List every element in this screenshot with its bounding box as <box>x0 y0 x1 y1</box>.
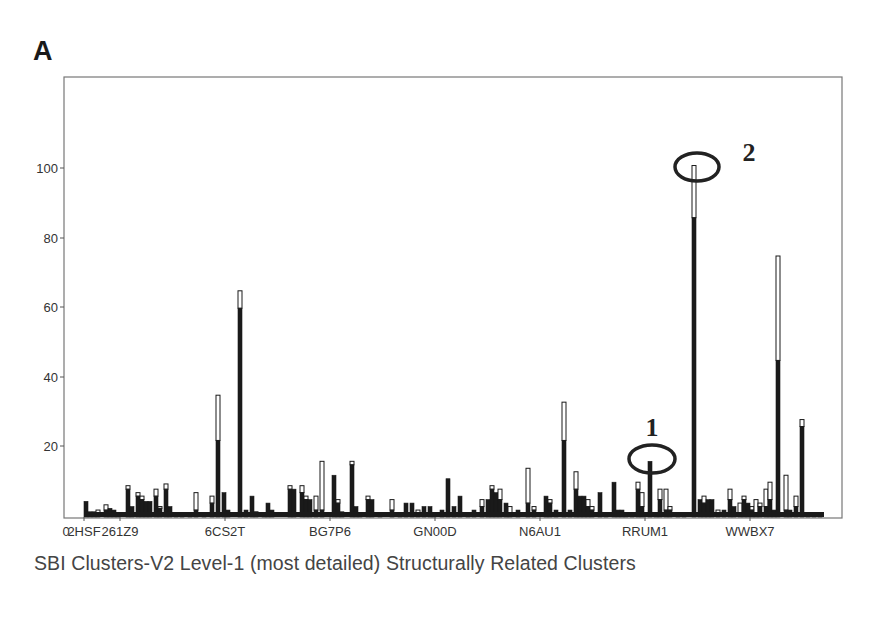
annotation-label: 1 <box>646 413 659 442</box>
x-tick-label: 261Z9 <box>102 524 139 539</box>
annotation-label: 2 <box>743 138 756 167</box>
y-tick-label: 40 <box>44 370 58 385</box>
bar <box>776 256 780 517</box>
bar <box>350 461 354 517</box>
bar <box>446 479 450 517</box>
x-tick-label: BG7P6 <box>309 524 351 539</box>
bar <box>648 461 652 517</box>
x-axis-title: SBI Clusters-V2 Level-1 (most detailed) … <box>34 552 636 575</box>
x-tick-label: GN00D <box>413 524 456 539</box>
bar <box>216 395 220 517</box>
y-tick-label: 60 <box>44 300 58 315</box>
bar-chart: 20406080100 02HSF261Z96CS2TBG7P6GN00DN6A… <box>0 0 871 619</box>
bar <box>562 402 566 517</box>
bar <box>636 482 640 517</box>
y-tick-label: 100 <box>36 161 58 176</box>
x-tick-label: 2HSF <box>67 524 100 539</box>
bar <box>238 291 242 517</box>
x-tick-label: N6AU1 <box>519 524 561 539</box>
x-tick-label: 6CS2T <box>205 524 246 539</box>
bar <box>526 468 530 517</box>
y-tick-label: 80 <box>44 231 58 246</box>
bar <box>320 461 324 517</box>
baseline-band <box>84 512 824 517</box>
bar <box>800 420 804 517</box>
bar <box>574 472 578 517</box>
y-axis: 20406080100 <box>36 161 64 454</box>
x-tick-label: WWBX7 <box>725 524 774 539</box>
x-axis: 02HSF261Z96CS2TBG7P6GN00DN6AU1RRUM1WWBX7 <box>62 517 774 539</box>
bar <box>612 482 616 517</box>
plot-frame <box>64 77 842 518</box>
bar <box>784 475 788 517</box>
bar <box>768 482 772 517</box>
y-tick-label: 20 <box>44 439 58 454</box>
bar <box>332 475 336 517</box>
x-tick-label: RRUM1 <box>622 524 668 539</box>
bar <box>692 166 696 517</box>
